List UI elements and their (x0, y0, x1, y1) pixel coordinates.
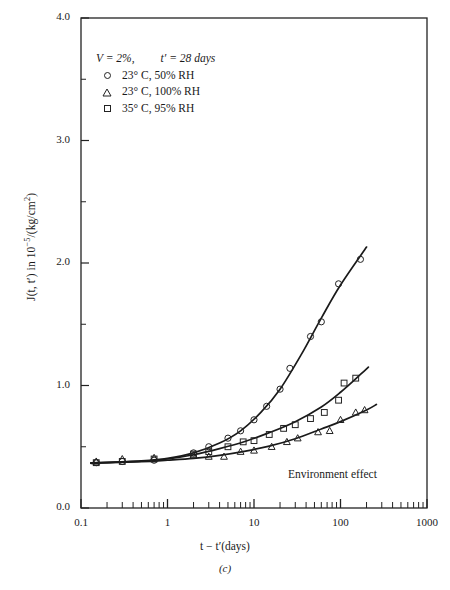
legend-item-2: 35° C, 95% RH (96, 100, 215, 117)
data-point-square (336, 397, 342, 403)
y-tick-label: 1.0 (26, 378, 70, 390)
legend-conditions: V = 2%, t′ = 28 days (96, 50, 215, 67)
series-2 (91, 367, 369, 465)
x-tick-label: 10 (224, 516, 284, 528)
x-tick-label: 100 (311, 516, 371, 528)
legend: V = 2%, t′ = 28 days 23° C, 50% RH 23° C… (96, 50, 215, 116)
y-tick-label: 0.0 (26, 500, 70, 512)
fit-curve (91, 247, 367, 463)
legend-item-0: 23° C, 50% RH (96, 67, 215, 84)
plot-annotation: Environment effect (288, 468, 377, 480)
series-0 (91, 247, 367, 466)
x-tick-label: 0.1 (51, 516, 111, 528)
data-point-square (308, 416, 314, 422)
legend-age: t′ = 28 days (161, 50, 216, 67)
data-point-square (341, 380, 347, 386)
y-axis-label: J(t, t′) in 10−5/(kg/cm2) (23, 157, 37, 337)
figure-creep-compliance: J(t, t′) in 10−5/(kg/cm2) t − t′(days) (… (0, 0, 450, 590)
legend-label-2: 35° C, 95% RH (122, 100, 194, 117)
triangle-marker-icon (96, 83, 118, 100)
data-point-circle (287, 365, 293, 371)
x-tick-label: 1 (138, 516, 198, 528)
legend-label-1: 23° C, 100% RH (122, 83, 200, 100)
legend-label-0: 23° C, 50% RH (122, 67, 194, 84)
data-point-triangle (326, 427, 333, 433)
y-tick-label: 2.0 (26, 255, 70, 267)
legend-volume: V = 2%, (96, 50, 135, 67)
x-tick-label: 1000 (397, 516, 450, 528)
square-marker-icon (96, 100, 118, 117)
data-point-square (321, 410, 327, 416)
figure-caption: (c) (0, 562, 450, 574)
circle-marker-icon (96, 67, 118, 84)
y-tick-label: 4.0 (26, 10, 70, 22)
y-tick-label: 3.0 (26, 133, 70, 145)
legend-item-1: 23° C, 100% RH (96, 83, 215, 100)
series-1 (91, 404, 377, 464)
x-axis-label: t − t′(days) (0, 540, 450, 552)
